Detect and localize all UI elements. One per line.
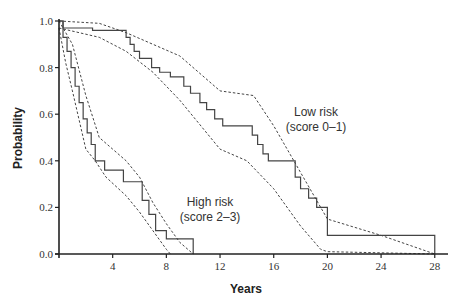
y-tick-label: 0.8 <box>39 62 53 74</box>
series-low-risk-upper-95-ci <box>59 21 435 254</box>
series-low-risk-score-0-1 <box>59 21 435 254</box>
series-high-risk-lower-95-ci <box>59 28 170 254</box>
series-low-risk-lower-95-ci <box>59 28 435 254</box>
y-tick-label: 0.0 <box>39 248 53 260</box>
high-risk-label: High risk <box>187 195 235 209</box>
high-risk-score-label: (score 2–3) <box>180 210 241 224</box>
survival-chart: 0.00.20.40.60.81.0481216202428 Years Pro… <box>0 0 462 306</box>
low-risk-label: Low risk <box>294 105 339 119</box>
y-tick-label: 0.4 <box>39 155 53 167</box>
x-tick-label: 12 <box>215 260 226 272</box>
x-tick-label: 4 <box>110 260 116 272</box>
low-risk-score-label: (score 0–1) <box>286 120 347 134</box>
x-tick-label: 16 <box>268 260 280 272</box>
y-tick-label: 0.2 <box>39 201 53 213</box>
y-tick-label: 1.0 <box>39 15 53 27</box>
series-high-risk-score-2-3 <box>59 21 193 254</box>
curves <box>59 21 435 254</box>
axes: 0.00.20.40.60.81.0481216202428 <box>39 15 448 272</box>
y-tick-label: 0.6 <box>39 108 53 120</box>
x-tick-label: 24 <box>376 260 388 272</box>
x-tick-label: 8 <box>164 260 170 272</box>
x-tick-label: 20 <box>322 260 334 272</box>
y-axis-label: Probability <box>11 107 25 169</box>
x-tick-label: 28 <box>429 260 441 272</box>
x-axis-label: Years <box>230 282 262 296</box>
series-high-risk-upper-95-ci <box>59 21 193 254</box>
